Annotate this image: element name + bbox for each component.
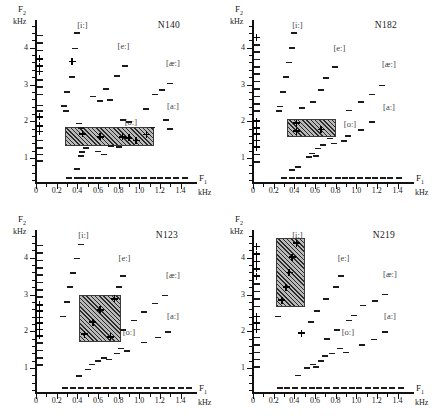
data-point-dash xyxy=(131,320,137,322)
data-point-dash xyxy=(295,375,301,377)
y-tick-minor xyxy=(249,114,252,115)
data-point-dash xyxy=(323,298,329,300)
y-tick-label: 4 xyxy=(229,254,245,262)
data-point-dash xyxy=(308,321,314,323)
y-tick-minor xyxy=(249,390,252,391)
y-tick-minor xyxy=(32,361,35,362)
vowel-label: [e:] xyxy=(338,253,350,263)
data-point-plus xyxy=(293,240,300,247)
data-point-dash xyxy=(120,329,126,331)
data-point-baseline xyxy=(62,387,68,389)
y-tick xyxy=(30,158,35,159)
x-tick-label: 1.2 xyxy=(366,397,388,405)
data-point-dash xyxy=(37,42,43,44)
data-point-plus xyxy=(79,130,86,137)
data-point-dash xyxy=(254,344,260,346)
data-point-dash xyxy=(78,244,84,246)
y-tick-minor xyxy=(249,287,252,288)
y-tick-label: 3 xyxy=(229,291,245,299)
vowel-label: [æ:] xyxy=(382,59,396,69)
x-tick-label: 1.4 xyxy=(170,187,192,195)
data-point-plus xyxy=(298,330,305,337)
data-point-baseline xyxy=(66,177,72,179)
data-point-baseline xyxy=(365,387,371,389)
data-point-baseline xyxy=(326,177,332,179)
formant-chart-grid: F2kHzF1kHz00.20.40.60.81.01.21.41234N140… xyxy=(0,0,433,419)
data-point-dash xyxy=(159,89,165,91)
data-point-dash xyxy=(341,140,347,142)
data-point-dash xyxy=(78,127,84,129)
data-point-dash xyxy=(61,105,67,107)
x-tick-label: 0.4 xyxy=(283,397,305,405)
data-point-baseline xyxy=(103,177,109,179)
y-tick-minor xyxy=(32,346,35,347)
data-point-plus xyxy=(253,273,260,280)
data-point-plus xyxy=(89,319,96,326)
data-point-dash xyxy=(254,352,260,354)
data-point-dash xyxy=(315,148,321,150)
y-tick-minor xyxy=(249,383,252,384)
data-point-dash xyxy=(141,342,147,344)
y-tick-minor xyxy=(32,383,35,384)
data-point-plus xyxy=(253,251,260,258)
data-point-dash xyxy=(327,138,333,140)
data-point-dash xyxy=(37,154,43,156)
y-tick-minor xyxy=(32,339,35,340)
y-tick-minor xyxy=(249,151,252,152)
data-point-dash xyxy=(346,110,352,112)
data-point-dash xyxy=(70,272,76,274)
data-point-dash xyxy=(295,166,301,168)
data-point-dash xyxy=(37,296,43,298)
data-point-plus xyxy=(278,297,285,304)
y-axis-unit: kHz xyxy=(13,227,26,236)
data-point-dash xyxy=(95,151,101,153)
y-tick-minor xyxy=(32,143,35,144)
data-point-baseline xyxy=(319,177,325,179)
x-axis-unit: kHz xyxy=(198,398,211,407)
y-tick-minor xyxy=(249,173,252,174)
data-point-dash xyxy=(254,154,260,156)
data-point-dash xyxy=(167,83,173,85)
y-tick-minor xyxy=(249,165,252,166)
data-point-baseline xyxy=(284,387,290,389)
data-point-dash xyxy=(369,94,375,96)
data-point-dash xyxy=(114,353,120,355)
data-point-dash xyxy=(337,348,343,350)
data-point-dash xyxy=(37,260,43,262)
vowel-label: [a:] xyxy=(167,101,179,111)
data-point-dash xyxy=(280,91,286,93)
data-point-dash xyxy=(152,303,158,305)
data-point-dash xyxy=(155,337,161,339)
data-point-dash xyxy=(106,359,112,361)
data-point-dash xyxy=(107,99,113,101)
y-tick-minor xyxy=(249,317,252,318)
y-tick-minor xyxy=(32,180,35,181)
data-point-baseline xyxy=(316,387,322,389)
y-tick-minor xyxy=(32,236,35,237)
y-tick-label: 3 xyxy=(229,81,245,89)
data-point-baseline xyxy=(389,387,395,389)
data-point-dash xyxy=(37,282,43,284)
y-tick-minor xyxy=(249,62,252,63)
y-tick-minor xyxy=(32,287,35,288)
data-point-dash xyxy=(369,121,375,123)
panel-N182: F2kHzF1kHz00.20.40.60.81.01.21.41234N182… xyxy=(217,0,433,209)
data-point-dash xyxy=(382,294,388,296)
x-tick-label: 0.2 xyxy=(263,397,285,405)
data-point-baseline xyxy=(136,387,142,389)
data-point-dash xyxy=(313,366,319,368)
vowel-label: [i:] xyxy=(77,20,87,30)
data-point-dash xyxy=(74,258,80,260)
data-point-baseline xyxy=(134,177,140,179)
x-tick-label: 1.0 xyxy=(128,187,150,195)
x-tick-label: 0.6 xyxy=(87,187,109,195)
data-point-dash xyxy=(120,275,126,277)
y-tick-minor xyxy=(32,136,35,137)
data-point-baseline xyxy=(292,387,298,389)
y-tick-minor xyxy=(249,77,252,78)
y-tick xyxy=(247,85,252,86)
data-point-dash xyxy=(309,153,315,155)
y-axis-unit: kHz xyxy=(230,17,243,26)
data-point-baseline xyxy=(80,177,86,179)
data-point-dash xyxy=(124,350,130,352)
